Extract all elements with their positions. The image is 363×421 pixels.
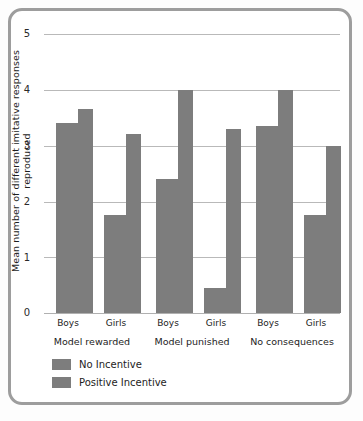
x-sublabel-model-rewarded-girls: Girls [94, 318, 138, 328]
bar-no-consequences-girls-no-incentive [304, 215, 326, 313]
x-sublabel-model-punished-boys: Boys [146, 318, 190, 328]
bar-model-rewarded-girls-no-incentive [104, 215, 126, 313]
x-group-label-model-rewarded: Model rewarded [44, 336, 140, 347]
chart-legend: No Incentive Positive Incentive [52, 355, 167, 391]
chart-figure: Mean number of different imitative respo… [0, 0, 363, 421]
bar-model-punished-boys-no-incentive [156, 179, 178, 313]
bar-model-punished-girls-no-incentive [204, 288, 226, 313]
bar-model-punished-boys-positive-incentive [178, 90, 193, 313]
bar-model-rewarded-boys-no-incentive [56, 123, 78, 313]
bar-model-rewarded-girls-positive-incentive [126, 134, 141, 313]
x-sublabel-model-rewarded-boys: Boys [46, 318, 90, 328]
x-group-label-no-consequences: No consequences [242, 336, 342, 347]
x-sublabel-no-consequences-boys: Boys [246, 318, 290, 328]
bar-no-consequences-boys-no-incentive [256, 126, 278, 313]
x-axis-baseline [44, 313, 340, 314]
legend-swatch-positive-incentive [52, 377, 71, 388]
legend-label-no-incentive: No Incentive [79, 359, 142, 370]
plot-area [44, 34, 340, 313]
legend-item-positive-incentive: Positive Incentive [52, 373, 167, 391]
legend-item-no-incentive: No Incentive [52, 355, 167, 373]
gridline-5 [44, 34, 340, 35]
bar-no-consequences-girls-positive-incentive [326, 146, 341, 313]
x-group-label-model-punished: Model punished [144, 336, 240, 347]
legend-swatch-no-incentive [52, 359, 71, 370]
x-sublabel-no-consequences-girls: Girls [294, 318, 338, 328]
bar-model-rewarded-boys-positive-incentive [78, 109, 93, 313]
bar-model-punished-girls-positive-incentive [226, 129, 241, 313]
x-sublabel-model-punished-girls: Girls [194, 318, 238, 328]
legend-label-positive-incentive: Positive Incentive [79, 377, 167, 388]
bar-no-consequences-boys-positive-incentive [278, 90, 293, 313]
y-axis-label: Mean number of different imitative respo… [10, 36, 32, 286]
